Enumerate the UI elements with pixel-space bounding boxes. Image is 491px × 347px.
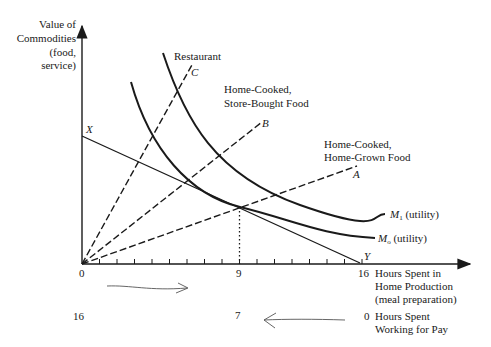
work-tick-16: 16 [73, 310, 85, 322]
M1-label: M1 (utility) [389, 208, 439, 222]
M0-label: Mo (utility) [377, 232, 427, 246]
work-label-line1: Hours Spent [375, 310, 430, 322]
ray-B-label: B [262, 117, 269, 129]
store-bought-label-line2: Store-Bought Food [224, 97, 309, 109]
y-label-line3: (food, [49, 46, 76, 59]
y-label-line1: Value of [39, 18, 76, 30]
ray-C-label: C [191, 66, 199, 78]
x-tick-16: 16 [358, 267, 370, 279]
x-tick-9: 9 [236, 267, 242, 279]
ray-A-home-grown [82, 166, 357, 264]
home-grown-label-line2: Home-Grown Food [324, 151, 411, 163]
hand-arrow-right [107, 283, 188, 293]
ray-A-label: A [352, 168, 360, 180]
restaurant-label: Restaurant [174, 50, 221, 62]
chart: Value of Commodities (food, service) Res… [0, 0, 491, 347]
x-label-line2: Home Production [375, 280, 453, 292]
ray-C-restaurant [82, 63, 193, 264]
budget-X-label: X [85, 123, 94, 135]
y-label-line2: Commodities [17, 32, 76, 44]
work-tick-7: 7 [235, 309, 241, 321]
work-tick-0: 0 [364, 310, 370, 322]
budget-Y-label: Y [364, 250, 372, 262]
x-label-line3: (meal preparation) [375, 293, 457, 306]
y-label-line4: service) [41, 59, 76, 72]
x-tick-0: 0 [79, 267, 85, 279]
work-label-line2: Working for Pay [375, 323, 449, 335]
hand-arrow-left [264, 313, 345, 328]
x-ticks [100, 259, 363, 264]
home-grown-label-line1: Home-Cooked, [324, 138, 392, 150]
store-bought-label-line1: Home-Cooked, [224, 83, 292, 95]
x-label-line1: Hours Spent in [375, 267, 442, 279]
ray-B-store-bought [82, 122, 262, 264]
